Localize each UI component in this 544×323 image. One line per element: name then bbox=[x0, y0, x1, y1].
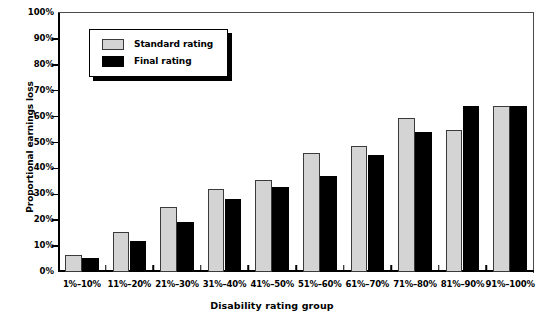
bar-final-rating bbox=[510, 106, 527, 272]
y-axis-tick-label: 80% bbox=[18, 60, 54, 69]
x-axis-tick-label: 41%–50% bbox=[250, 279, 294, 289]
bar-final-rating bbox=[130, 241, 147, 272]
y-axis-tick-label: 0% bbox=[18, 267, 54, 276]
bar-standard-rating bbox=[113, 232, 130, 272]
bar-standard-rating bbox=[255, 180, 272, 272]
y-axis-tick-mark bbox=[52, 219, 60, 221]
bar-final-rating bbox=[415, 132, 432, 272]
y-axis-tick-label: 50% bbox=[18, 138, 54, 147]
x-axis-tick-mark bbox=[486, 265, 488, 272]
x-axis-tick-mark bbox=[390, 265, 392, 272]
bar-standard-rating bbox=[303, 153, 320, 272]
x-axis-tick-mark bbox=[105, 265, 107, 272]
bar-group bbox=[351, 13, 385, 272]
bar-group bbox=[446, 13, 480, 272]
y-axis-tick-mark bbox=[52, 168, 60, 170]
y-axis-tick-mark bbox=[52, 38, 60, 40]
bar-final-rating bbox=[82, 258, 99, 272]
x-axis-tick-label: 21%–30% bbox=[155, 279, 199, 289]
bar-standard-rating bbox=[65, 255, 82, 272]
y-axis-tick-label: 30% bbox=[18, 189, 54, 198]
y-axis-tick-labels: 100%90%80%70%60%50%40%30%20%10%0% bbox=[14, 0, 54, 323]
bar-final-rating bbox=[463, 106, 480, 272]
bar-final-rating bbox=[320, 176, 337, 272]
x-axis-tick-label: 51%–60% bbox=[298, 279, 342, 289]
x-axis-tick-label: 61%–70% bbox=[346, 279, 390, 289]
y-axis-tick-label: 10% bbox=[18, 241, 54, 250]
bar-standard-rating bbox=[398, 118, 415, 272]
x-axis-tick-label: 81%–90% bbox=[441, 279, 485, 289]
y-axis-tick-mark bbox=[52, 64, 60, 66]
y-axis-tick-label: 20% bbox=[18, 215, 54, 224]
x-axis-tick-mark bbox=[152, 265, 154, 272]
x-axis-tick-label: 71%–80% bbox=[393, 279, 437, 289]
bar-final-rating bbox=[272, 187, 289, 272]
bar-standard-rating bbox=[208, 189, 225, 272]
x-axis-tick-label: 11%–20% bbox=[108, 279, 152, 289]
bar-standard-rating bbox=[160, 207, 177, 272]
y-axis-tick-label: 70% bbox=[18, 86, 54, 95]
chart-legend: Standard ratingFinal rating bbox=[89, 29, 228, 77]
y-axis-tick-label: 40% bbox=[18, 163, 54, 172]
bar-standard-rating bbox=[446, 130, 463, 272]
bar-group bbox=[493, 13, 527, 272]
y-axis-tick-mark bbox=[52, 194, 60, 196]
x-axis-tick-mark bbox=[295, 265, 297, 272]
bar-final-rating bbox=[368, 155, 385, 272]
legend-item: Final rating bbox=[102, 54, 191, 68]
bar-final-rating bbox=[177, 222, 194, 273]
legend-label: Final rating bbox=[134, 56, 191, 66]
bar-group bbox=[398, 13, 432, 272]
x-axis-tick-mark bbox=[248, 265, 250, 272]
x-axis-tick-label: 1%–10% bbox=[63, 279, 101, 289]
y-axis-tick-mark bbox=[52, 90, 60, 92]
y-axis-tick-mark bbox=[52, 142, 60, 144]
legend-swatch-standard-rating bbox=[102, 39, 124, 50]
x-axis-tick-mark bbox=[438, 265, 440, 272]
y-axis-tick-label: 100% bbox=[18, 8, 54, 17]
bar-standard-rating bbox=[493, 106, 510, 272]
y-axis-tick-mark bbox=[52, 116, 60, 118]
y-axis-tick-label: 90% bbox=[18, 34, 54, 43]
bar-chart: Proportional earnings loss 100%90%80%70%… bbox=[0, 0, 544, 323]
x-axis-tick-label: 31%–40% bbox=[203, 279, 247, 289]
x-axis-tick-mark bbox=[343, 265, 345, 272]
x-axis-title: Disability rating group bbox=[0, 300, 544, 311]
bar-final-rating bbox=[225, 199, 242, 272]
legend-label: Standard rating bbox=[134, 39, 213, 49]
y-axis-tick-label: 60% bbox=[18, 112, 54, 121]
y-axis-tick-mark bbox=[52, 245, 60, 247]
legend-item: Standard rating bbox=[102, 37, 213, 51]
bar-group bbox=[255, 13, 289, 272]
bar-standard-rating bbox=[351, 146, 368, 272]
bar-group bbox=[303, 13, 337, 272]
legend-swatch-final-rating bbox=[102, 56, 124, 67]
x-axis-tick-label: 91%–100% bbox=[486, 279, 535, 289]
x-axis-tick-mark bbox=[200, 265, 202, 272]
